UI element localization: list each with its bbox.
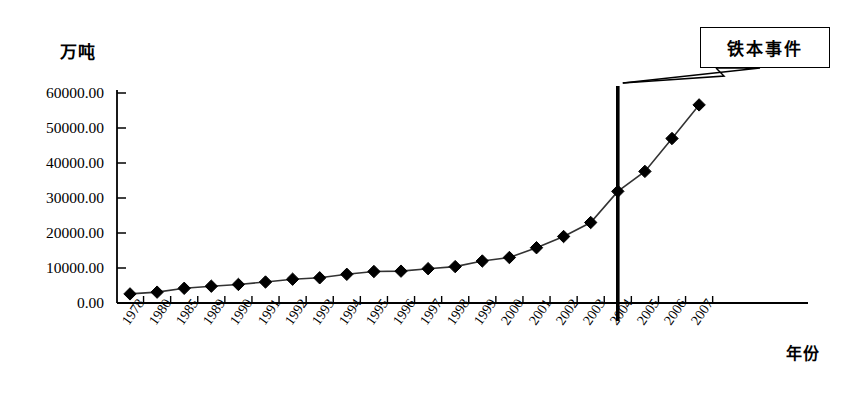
annotation-callout-tail bbox=[623, 68, 760, 83]
y-axis-tick-label: 20000.00 bbox=[8, 225, 104, 241]
y-axis-tick-label: 10000.00 bbox=[8, 260, 104, 276]
chart-figure: 万吨 年份 铁本事件 0.0010000.0020000.0030000.004… bbox=[0, 0, 856, 412]
annotation-callout-label: 铁本事件 bbox=[727, 35, 803, 60]
x-axis-title: 年份 bbox=[786, 340, 820, 364]
y-axis-title: 万吨 bbox=[60, 38, 96, 63]
chart-axes bbox=[117, 90, 808, 303]
y-axis-tick-label: 0.00 bbox=[8, 295, 104, 311]
data-series-line bbox=[130, 105, 699, 294]
y-axis-tick-label: 50000.00 bbox=[8, 120, 104, 136]
y-axis-ticks bbox=[117, 93, 126, 303]
y-axis-tick-label: 60000.00 bbox=[8, 85, 104, 101]
y-axis-tick-label: 40000.00 bbox=[8, 155, 104, 171]
annotation-callout-box: 铁本事件 bbox=[700, 27, 830, 68]
y-axis-tick-label: 30000.00 bbox=[8, 190, 104, 206]
